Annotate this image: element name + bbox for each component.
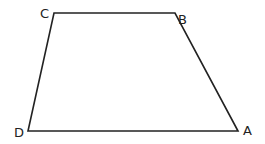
vertex-label-a: A [243, 123, 252, 138]
vertex-label-c: C [40, 6, 49, 21]
vertex-label-d: D [14, 125, 24, 140]
quadrilateral-diagram: A B C D [0, 0, 265, 144]
vertex-label-b: B [178, 12, 187, 27]
quadrilateral-abcd [28, 13, 238, 131]
